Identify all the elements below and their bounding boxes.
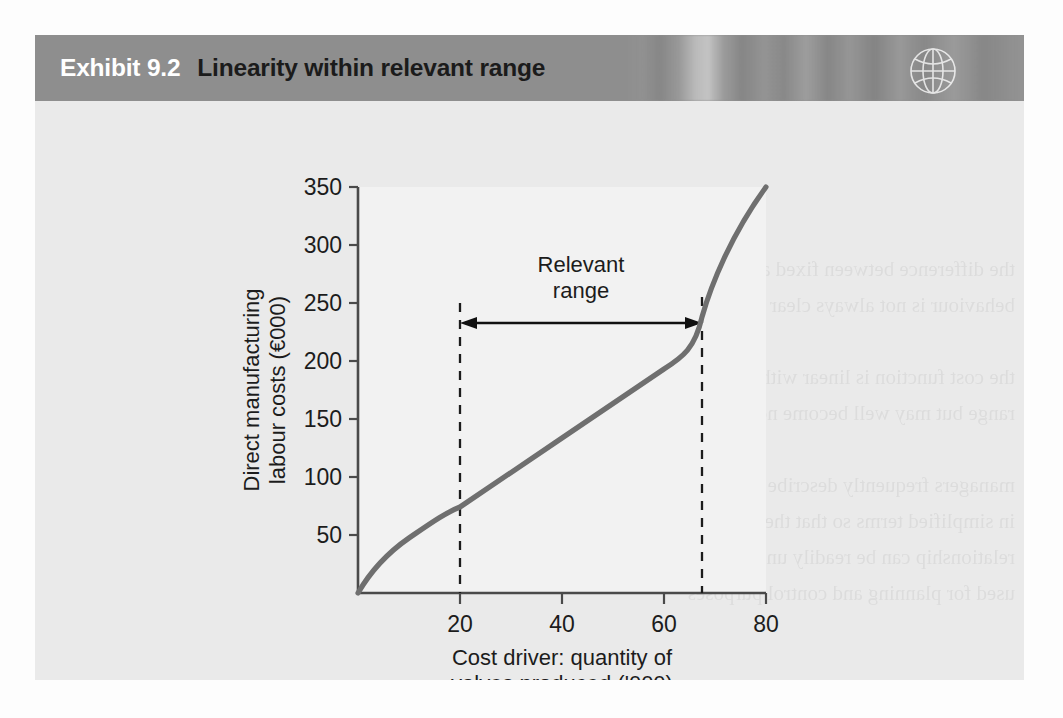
y-axis-ticks bbox=[349, 187, 358, 535]
x-tick-label: 20 bbox=[447, 611, 473, 637]
x-axis-title: Cost driver: quantity of valves produced… bbox=[451, 645, 673, 680]
chart-container: the difference between fixed and variabl… bbox=[35, 101, 1024, 680]
y-tick-label: 200 bbox=[304, 348, 342, 374]
x-tick-label: 40 bbox=[549, 611, 575, 637]
y-tick-label: 250 bbox=[304, 290, 342, 316]
x-axis-title-line-1: Cost driver: quantity of bbox=[452, 645, 673, 670]
x-axis-tick-labels: 20 40 60 80 bbox=[447, 611, 779, 637]
y-axis-title-line-2: labour costs (€000) bbox=[265, 296, 290, 484]
y-axis-tick-labels: 350 300 250 200 150 100 50 bbox=[304, 174, 342, 548]
relevant-range-label-line-2: range bbox=[553, 278, 609, 303]
x-axis-ticks bbox=[460, 593, 766, 604]
exhibit-number-label: Exhibit 9.2 bbox=[60, 54, 180, 82]
y-tick-label: 350 bbox=[304, 174, 342, 200]
exhibit-panel: Exhibit 9.2 Linearity within relevant ra… bbox=[35, 35, 1024, 680]
scanned-page-background: Exhibit 9.2 Linearity within relevant ra… bbox=[0, 0, 1063, 718]
exhibit-caption-label: Linearity within relevant range bbox=[197, 54, 545, 82]
x-tick-label: 80 bbox=[753, 611, 779, 637]
y-axis-title-line-1: Direct manufacturing bbox=[239, 289, 264, 492]
y-tick-label: 100 bbox=[304, 464, 342, 490]
globe-icon bbox=[905, 43, 961, 99]
y-tick-label: 50 bbox=[316, 522, 342, 548]
y-axis-title: Direct manufacturing labour costs (€000) bbox=[239, 289, 290, 492]
y-tick-label: 150 bbox=[304, 406, 342, 432]
header-photo-texture bbox=[624, 35, 1024, 101]
x-axis-title-line-2: valves produced ('000) bbox=[451, 671, 673, 680]
exhibit-title: Exhibit 9.2 Linearity within relevant ra… bbox=[60, 35, 545, 101]
y-tick-label: 300 bbox=[304, 232, 342, 258]
exhibit-header-bar: Exhibit 9.2 Linearity within relevant ra… bbox=[35, 35, 1024, 101]
relevant-range-label-line-1: Relevant bbox=[538, 252, 625, 277]
cost-behaviour-chart: 350 300 250 200 150 100 50 Direct manufa… bbox=[35, 101, 1024, 680]
x-tick-label: 60 bbox=[651, 611, 677, 637]
